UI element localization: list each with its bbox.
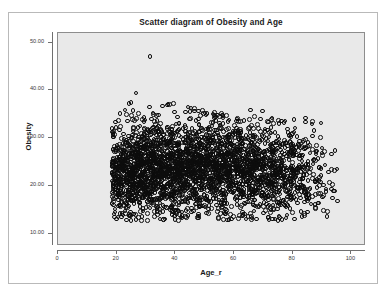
scatter-point (310, 134, 315, 139)
scatter-point (119, 144, 124, 149)
scatter-point (161, 217, 166, 222)
scatter-point (169, 197, 174, 202)
scatter-point (151, 125, 156, 130)
scatter-point (221, 129, 226, 134)
scatter-point (242, 187, 247, 192)
scatter-point (249, 217, 254, 222)
scatter-point (303, 120, 308, 125)
scatter-point (325, 209, 330, 214)
scatter-point (301, 165, 306, 170)
scatter-point (204, 113, 209, 118)
scatter-point (277, 167, 282, 172)
scatter-point (156, 113, 161, 118)
scatter-point (272, 154, 277, 159)
scatter-point (196, 156, 201, 161)
scatter-point (325, 214, 330, 219)
scatter-point (170, 124, 175, 129)
scatter-point (226, 126, 231, 131)
scatter-point (140, 214, 145, 219)
x-tick-label: 100 (335, 255, 365, 261)
scatter-point (145, 218, 150, 223)
scatter-point (225, 218, 230, 223)
scatter-point (183, 110, 188, 115)
scatter-point (223, 158, 228, 163)
scatter-point (242, 212, 247, 217)
scatter-point (303, 116, 308, 121)
x-tick-mark (350, 250, 351, 254)
scatter-point (233, 196, 238, 201)
scatter-point (235, 202, 240, 207)
scatter-point (308, 151, 313, 156)
scatter-point (136, 111, 141, 116)
scatter-point (167, 102, 172, 107)
scatter-point (181, 199, 186, 204)
scatter-point (165, 126, 170, 131)
scatter-point (161, 209, 166, 214)
scatter-point (278, 203, 283, 208)
scatter-point (241, 165, 246, 170)
scatter-point (139, 157, 144, 162)
scatter-point (319, 121, 324, 126)
scatter-point (225, 171, 230, 176)
scatter-point (166, 155, 171, 160)
scatter-point (115, 165, 120, 170)
scatter-point (114, 158, 119, 163)
scatter-point (140, 145, 145, 150)
scatter-point (195, 215, 200, 220)
x-tick-mark (174, 250, 175, 254)
scatter-point (269, 131, 274, 136)
scatter-point (281, 158, 286, 163)
scatter-point (180, 192, 185, 197)
x-tick-mark (292, 250, 293, 254)
scatter-point (219, 151, 224, 156)
scatter-point (236, 165, 241, 170)
scatter-point (235, 116, 240, 121)
scatter-point (167, 175, 172, 180)
scatter-point (198, 141, 203, 146)
scatter-point (263, 208, 268, 213)
scatter-point (113, 190, 118, 195)
scatter-point (177, 203, 182, 208)
scatter-point (251, 126, 256, 131)
scatter-point (330, 182, 335, 187)
scatter-point (131, 174, 136, 179)
chart-title: Scatter diagram of Obesity and Age (57, 16, 365, 29)
scatter-point (278, 192, 283, 197)
scatter-point (183, 167, 188, 172)
scatter-point (319, 173, 324, 178)
y-tick-label: 30.00 (0, 133, 44, 139)
scatter-point (132, 118, 137, 123)
scatter-point (118, 182, 123, 187)
scatter-plot-figure: Scatter diagram of Obesity and Age 10.00… (0, 0, 389, 295)
scatter-point (329, 152, 334, 157)
scatter-point (129, 218, 134, 223)
scatter-point (318, 135, 323, 140)
scatter-point (220, 188, 225, 193)
scatter-point (326, 170, 331, 175)
y-tick-label: 20.00 (0, 181, 44, 187)
scatter-point (124, 177, 129, 182)
scatter-point (280, 150, 285, 155)
scatter-point (297, 156, 302, 161)
scatter-point (166, 192, 171, 197)
scatter-point (271, 121, 276, 126)
scatter-point (258, 117, 263, 122)
scatter-point (182, 140, 187, 145)
scatter-point (123, 160, 128, 165)
scatter-point (145, 182, 150, 187)
scatter-point (145, 211, 150, 216)
y-tick-label: 40.00 (0, 85, 44, 91)
scatter-point (248, 108, 253, 113)
scatter-point (113, 120, 118, 125)
scatter-point (260, 109, 265, 114)
scatter-point (213, 155, 218, 160)
scatter-point (248, 211, 253, 216)
scatter-point (161, 203, 166, 208)
scatter-point (160, 163, 165, 168)
scatter-point (118, 111, 123, 116)
scatter-point (208, 137, 213, 142)
scatter-point (316, 201, 321, 206)
scatter-point (308, 166, 313, 171)
scatter-point (299, 169, 304, 174)
scatter-point (280, 217, 285, 222)
